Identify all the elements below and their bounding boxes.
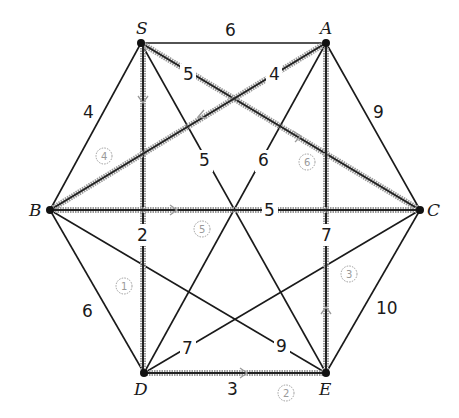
node-label-A: A	[318, 18, 332, 38]
node-label-B: B	[28, 200, 42, 220]
weight-D-E: 3	[227, 379, 238, 399]
weight-B-C: 5	[264, 200, 275, 220]
weight-S-D: 2	[137, 225, 148, 245]
weight-S-C: 5	[183, 64, 194, 84]
svg-text:2: 2	[283, 388, 289, 399]
order-marker-2: 2	[278, 385, 294, 401]
weight-A-D: 6	[258, 150, 269, 170]
weight-C-D: 7	[182, 338, 193, 358]
node-label-S: S	[136, 18, 148, 38]
node-B	[46, 206, 54, 214]
node-label-E: E	[318, 379, 332, 399]
node-D	[140, 369, 148, 377]
node-label-C: C	[427, 200, 440, 220]
weight-B-D: 6	[82, 301, 93, 321]
edge-C-E	[326, 210, 420, 373]
node-label-D: D	[133, 379, 148, 399]
node-C	[416, 206, 424, 214]
weight-S-E: 5	[199, 150, 210, 170]
svg-text:1: 1	[121, 281, 127, 292]
svg-text:3: 3	[346, 269, 352, 280]
order-markers: 1 2 3 4 5 6	[96, 148, 357, 401]
svg-text:5: 5	[199, 224, 205, 235]
node-A	[322, 39, 330, 47]
weight-B-E: 9	[276, 336, 287, 356]
weight-C-E: 10	[376, 298, 398, 318]
node-S	[137, 39, 145, 47]
order-marker-5: 5	[194, 221, 210, 237]
weight-A-B: 4	[269, 64, 280, 84]
svg-text:4: 4	[101, 151, 107, 162]
weight-S-B: 4	[83, 102, 94, 122]
graph-diagram: 6 4 5 2 5 4 9 6 7 5 6 9 7 10 3 1 2	[0, 0, 459, 418]
order-marker-6: 6	[299, 154, 315, 170]
weight-S-A: 6	[225, 20, 236, 40]
svg-text:6: 6	[304, 157, 310, 168]
order-marker-3: 3	[341, 266, 357, 282]
order-marker-1: 1	[116, 278, 132, 294]
order-marker-4: 4	[96, 148, 112, 164]
tree-edges	[50, 43, 420, 373]
weight-A-C: 9	[373, 102, 384, 122]
node-E	[322, 369, 330, 377]
weight-A-E: 7	[321, 225, 332, 245]
edge-A-C	[326, 43, 420, 210]
